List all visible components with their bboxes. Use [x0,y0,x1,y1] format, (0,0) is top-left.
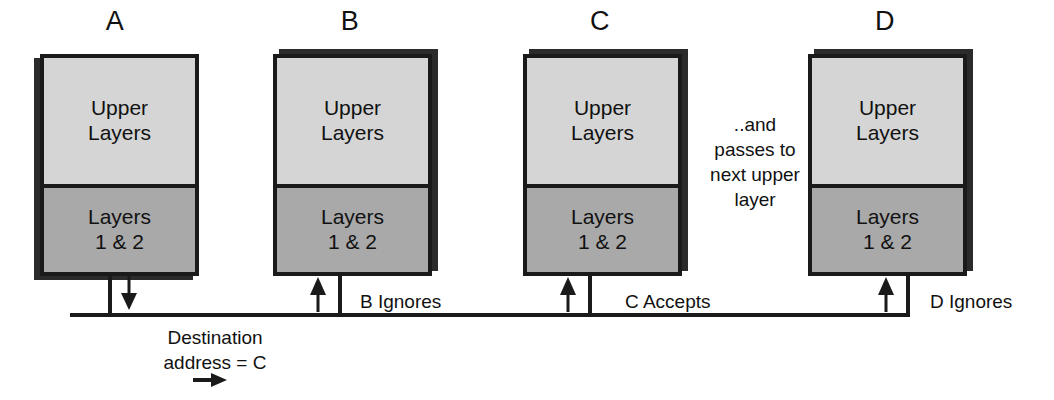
arrow-up-station-b [307,276,329,312]
arrow-up-station-d [875,276,897,312]
station-d-upper-line2: Layers [856,121,919,146]
station-b-upper-layers: Upper Layers [277,58,428,184]
station-d-upper-line1: Upper [859,96,916,121]
station-b-lower-layers: Layers 1 & 2 [277,184,428,272]
arrow-right-propagation-icon [193,372,229,392]
destination-address-note: Destination address = C [130,326,300,375]
arrow-up-station-c [557,276,579,312]
station-c-label: C [515,8,685,35]
shared-bus-line [70,313,910,317]
station-a-lower-line2: 1 & 2 [95,230,144,255]
station-a-lower-line1: Layers [88,205,151,230]
drop-line-d [906,275,910,315]
station-c-body: Upper Layers Layers 1 & 2 [523,54,682,276]
drop-line-c [588,275,592,315]
station-a-upper-layers: Upper Layers [44,58,195,184]
station-d: D Upper Layers Layers 1 & 2 [800,8,970,278]
station-d-lower-layers: Layers 1 & 2 [812,184,963,272]
station-a-upper-line2: Layers [88,121,151,146]
pass-up-line4: layer [690,187,820,212]
bus-note-b-ignores: B Ignores [360,290,441,314]
station-d-upper-layers: Upper Layers [812,58,963,184]
station-c-lower-line1: Layers [571,205,634,230]
station-b-upper-line1: Upper [324,96,381,121]
station-c-lower-line2: 1 & 2 [578,230,627,255]
station-d-label: D [800,8,970,35]
pass-to-upper-layer-note: ..and passes to next upper layer [690,112,820,212]
arrow-down-station-a [118,276,140,312]
station-a: A Upper Layers Layers 1 & 2 [30,8,200,278]
station-d-lower-line2: 1 & 2 [863,230,912,255]
diagram-canvas: A Upper Layers Layers 1 & 2 B Upper Laye… [0,0,1054,400]
station-c-lower-layers: Layers 1 & 2 [527,184,678,272]
pass-up-line1: ..and [690,112,820,137]
bus-note-d-ignores: D Ignores [930,290,1012,314]
station-a-upper-line1: Upper [91,96,148,121]
station-c-upper-line2: Layers [571,121,634,146]
pass-up-line2: passes to [690,137,820,162]
bus-note-c-accepts: C Accepts [625,290,711,314]
station-c: C Upper Layers Layers 1 & 2 [515,8,685,278]
station-c-upper-layers: Upper Layers [527,58,678,184]
destination-line1: Destination [130,326,300,351]
station-b-upper-line2: Layers [321,121,384,146]
station-d-lower-line1: Layers [856,205,919,230]
drop-line-b [338,275,342,315]
pass-up-line3: next upper [690,162,820,187]
station-b-lower-line2: 1 & 2 [328,230,377,255]
station-b-lower-line1: Layers [321,205,384,230]
station-b: B Upper Layers Layers 1 & 2 [265,8,435,278]
station-b-label: B [265,8,435,35]
station-a-body: Upper Layers Layers 1 & 2 [40,54,199,276]
station-b-body: Upper Layers Layers 1 & 2 [273,54,432,276]
station-d-body: Upper Layers Layers 1 & 2 [808,54,967,276]
drop-line-a [108,275,112,315]
station-a-lower-layers: Layers 1 & 2 [44,184,195,272]
station-a-label: A [30,8,200,35]
station-c-upper-line1: Upper [574,96,631,121]
